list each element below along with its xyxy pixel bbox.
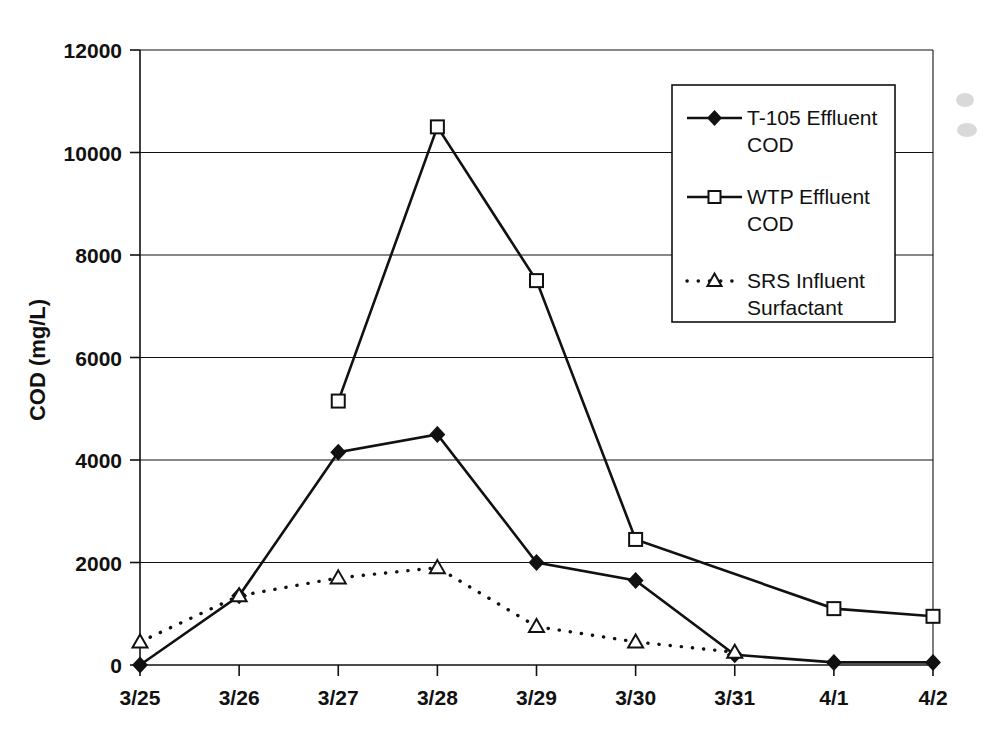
- scan-artifacts: [956, 93, 977, 137]
- y-tick-label: 6000: [75, 347, 122, 370]
- x-tick-label: 3/29: [516, 686, 557, 709]
- x-tick-label: 4/1: [819, 686, 849, 709]
- filled-diamond-marker: [133, 658, 147, 673]
- legend-label-line1: SRS Influent: [747, 269, 865, 292]
- x-tick-label: 3/31: [714, 686, 755, 709]
- chart-legend: T-105 Effluent COD WTP Effluent COD SRS …: [672, 85, 895, 322]
- series-srs-influent-surfactant: [133, 560, 743, 658]
- x-tick-label: 4/2: [918, 686, 947, 709]
- open-square-marker: [431, 120, 444, 133]
- y-tick-labels: 020004000600080001000012000: [64, 39, 122, 677]
- open-square-marker: [927, 610, 940, 623]
- x-tick-label: 3/28: [417, 686, 458, 709]
- legend-label-line1: T-105 Effluent: [747, 106, 878, 129]
- open-square-marker: [827, 602, 840, 615]
- y-tick-marks: [130, 50, 140, 665]
- legend-label-line2: COD: [747, 212, 794, 235]
- y-tick-label: 4000: [75, 449, 122, 472]
- x-tick-labels: 3/253/263/273/283/293/303/314/14/2: [120, 686, 948, 709]
- open-square-icon: [709, 191, 721, 203]
- x-tick-label: 3/30: [615, 686, 656, 709]
- open-square-marker: [530, 274, 543, 287]
- legend-label-line2: Surfactant: [747, 296, 843, 319]
- y-tick-label: 12000: [64, 39, 122, 62]
- open-triangle-marker: [133, 634, 148, 647]
- legend-label-line2: COD: [747, 133, 794, 156]
- open-triangle-marker: [529, 619, 544, 632]
- y-tick-label: 2000: [75, 552, 122, 575]
- legend-label-line1: WTP Effluent: [747, 185, 870, 208]
- open-square-marker: [629, 533, 642, 546]
- series-t-105-effluent-cod: [133, 427, 940, 673]
- y-tick-label: 8000: [75, 244, 122, 267]
- series-line: [140, 568, 735, 653]
- line-chart: 020004000600080001000012000 3/253/263/27…: [0, 0, 1008, 750]
- y-axis-title: COD (mg/L): [25, 299, 50, 421]
- filled-diamond-marker: [926, 655, 940, 670]
- x-tick-label: 3/27: [318, 686, 359, 709]
- y-tick-label: 10000: [64, 142, 122, 165]
- open-square-marker: [332, 395, 345, 408]
- filled-diamond-marker: [827, 655, 841, 670]
- x-tick-marks: [140, 665, 933, 676]
- open-triangle-marker: [331, 570, 346, 583]
- open-triangle-marker: [628, 634, 643, 647]
- x-tick-label: 3/25: [120, 686, 161, 709]
- x-tick-label: 3/26: [219, 686, 260, 709]
- y-tick-label: 0: [110, 654, 122, 677]
- chart-figure: 020004000600080001000012000 3/253/263/27…: [0, 0, 1008, 750]
